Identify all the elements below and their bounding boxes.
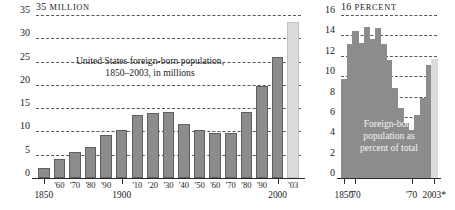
y-tick-label-4: 4: [307, 126, 335, 137]
bar-1850: [38, 168, 50, 178]
x-tick-label-90: '90: [246, 180, 278, 190]
y-tick-label-8: 8: [307, 86, 335, 97]
axis-unit-max-value-percent: 16: [341, 1, 352, 12]
y-tick-label-30: 30: [2, 27, 30, 38]
y-tick-label-0: 0: [307, 167, 335, 178]
bar-70: [69, 152, 81, 178]
chart-title-millions-line2: 1850–2003, in millions: [60, 67, 240, 79]
chart-title-millions-line1: United States foreign-born population,: [60, 55, 240, 67]
bar-90: [256, 86, 268, 178]
chart-panel-millions: 35MILLION 05101520253035 1850'60'70'80'9…: [0, 0, 305, 210]
axis-unit-caption-million: 35MILLION: [36, 1, 90, 12]
bar-1900: [116, 130, 128, 178]
x-tick-mark-70: [355, 179, 356, 184]
gridline-16: [341, 15, 437, 16]
x-tick-mark-1850: [344, 179, 345, 184]
x-axis-line: [32, 178, 305, 179]
chart-title-percent-line1: Foreign-born: [335, 118, 443, 130]
y-tick-label-0: 0: [2, 167, 30, 178]
x-axis-line: [337, 178, 441, 179]
chart-panel-percent: 16PERCENT 0246810121416 1850'70'702003* …: [305, 0, 455, 210]
x-tick-label-1850: 1850: [28, 190, 60, 200]
x-tick-label-2000: 2000: [262, 190, 294, 200]
y-tick-label-6: 6: [307, 106, 335, 117]
bar-10: [132, 115, 144, 178]
chart-title-percent-line2: population as: [335, 130, 443, 142]
y-tick-label-25: 25: [2, 51, 30, 62]
y-tick-label-35: 35: [2, 4, 30, 15]
bar-60: [54, 159, 66, 178]
x-tick-label-2003: 2003*: [418, 190, 450, 200]
axis-unit-max-value: 35: [36, 1, 47, 12]
x-tick-label-90: '90: [90, 180, 122, 190]
y-tick-label-15: 15: [2, 97, 30, 108]
x-tick-mark-2003: [434, 179, 435, 184]
y-tick-label-10: 10: [2, 120, 30, 131]
figure-root: 35MILLION 05101520253035 1850'60'70'80'9…: [0, 0, 455, 210]
bar-50: [194, 130, 206, 178]
bar-80: [85, 147, 97, 178]
y-tick-label-5: 5: [2, 144, 30, 155]
bar-60: [209, 133, 221, 178]
gridline-30: [36, 38, 301, 39]
y-tick-label-16: 16: [307, 4, 335, 15]
bar-70: [225, 133, 237, 178]
bar-03: [287, 22, 299, 178]
y-tick-label-20: 20: [2, 74, 30, 85]
y-tick-label-14: 14: [307, 24, 335, 35]
bar-2000: [272, 57, 284, 178]
y-tick-label-10: 10: [307, 65, 335, 76]
bar-30: [163, 112, 175, 178]
bar-80: [241, 112, 253, 178]
bar-90: [100, 135, 112, 178]
bar-40: [178, 124, 190, 178]
chart-title-percent-line3: percent of total: [335, 142, 443, 154]
x-tick-label-70: '70: [339, 190, 371, 200]
x-tick-mark-70: [412, 179, 413, 184]
x-tick-label-1900: 1900: [106, 190, 138, 200]
gridline-35: [36, 15, 301, 16]
bar-20: [147, 113, 159, 178]
axis-unit-label: MILLION: [50, 3, 90, 12]
axis-unit-label-percent: PERCENT: [355, 3, 397, 12]
axis-unit-caption-percent: 16PERCENT: [341, 1, 397, 12]
y-tick-label-12: 12: [307, 45, 335, 56]
y-tick-label-2: 2: [307, 147, 335, 158]
